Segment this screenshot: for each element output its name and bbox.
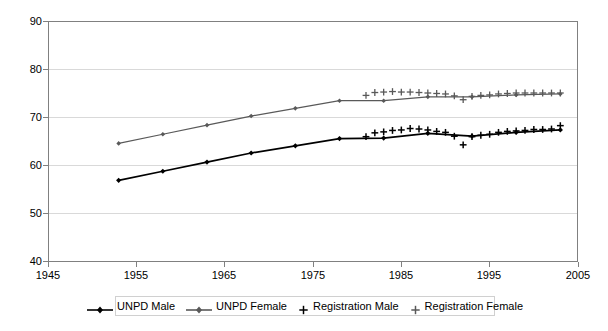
data-point-marker	[249, 150, 254, 155]
legend-label-unpd-female: UNPD Female	[216, 301, 287, 312]
data-point-marker	[469, 93, 476, 100]
data-point-marker	[522, 90, 529, 97]
data-point-marker	[381, 136, 386, 141]
data-point-marker	[205, 123, 210, 128]
data-point-marker	[530, 90, 537, 97]
series-unpd-male	[116, 127, 563, 183]
legend-marker-plus-female	[410, 301, 421, 311]
data-point-marker	[249, 114, 254, 119]
legend-label-registration-male: Registration Male	[313, 301, 399, 312]
data-point-marker	[539, 90, 546, 97]
data-point-marker	[398, 127, 405, 134]
data-point-marker	[363, 92, 370, 99]
data-point-marker	[451, 133, 458, 140]
data-point-marker	[389, 88, 396, 95]
data-point-marker	[293, 106, 298, 111]
data-point-marker	[548, 90, 555, 97]
data-point-marker	[557, 122, 564, 129]
data-point-marker	[486, 131, 493, 138]
chart-legend: UNPD Male UNPD Female Registration Male …	[115, 296, 495, 316]
legend-label-registration-female: Registration Female	[425, 301, 523, 312]
data-point-marker	[424, 90, 431, 97]
data-point-marker	[116, 141, 121, 146]
data-point-marker	[371, 129, 378, 136]
series-layer	[0, 0, 608, 331]
legend-item-unpd-female: UNPD Female	[186, 301, 287, 312]
legend-item-unpd-male: UNPD Male	[87, 301, 175, 312]
data-point-marker	[424, 127, 431, 134]
series-registration-female	[363, 88, 564, 103]
data-point-marker	[398, 89, 405, 96]
data-point-marker	[407, 125, 414, 132]
data-point-marker	[116, 178, 121, 183]
data-point-marker	[380, 89, 387, 96]
data-point-marker	[389, 127, 396, 134]
data-point-marker	[337, 136, 342, 141]
data-point-marker	[451, 92, 458, 99]
legend-item-registration-male: Registration Male	[298, 301, 399, 312]
data-point-marker	[407, 89, 414, 96]
data-point-marker	[380, 128, 387, 135]
legend-marker-diamond-line-male	[87, 301, 113, 311]
data-point-marker	[337, 98, 342, 103]
data-point-marker	[381, 98, 386, 103]
data-point-marker	[161, 132, 166, 137]
data-point-marker	[160, 169, 165, 174]
legend-label-unpd-male: UNPD Male	[117, 301, 175, 312]
data-point-marker	[204, 160, 209, 165]
data-point-marker	[371, 89, 378, 96]
legend-marker-diamond-line-female	[186, 301, 212, 311]
data-point-marker	[416, 126, 423, 133]
legend-marker-plus-male	[298, 301, 309, 311]
data-point-marker	[460, 141, 467, 148]
legend-item-registration-female: Registration Female	[410, 301, 523, 312]
data-point-marker	[477, 92, 484, 99]
data-point-marker	[477, 132, 484, 139]
line-chart: 90 80 70 60 50 40 1945 1955 1965 1975 19…	[0, 0, 608, 331]
data-point-marker	[433, 90, 440, 97]
data-point-marker	[557, 90, 564, 97]
data-point-marker	[416, 89, 423, 96]
data-point-marker	[486, 92, 493, 99]
data-point-marker	[293, 143, 298, 148]
data-point-marker	[469, 133, 476, 140]
